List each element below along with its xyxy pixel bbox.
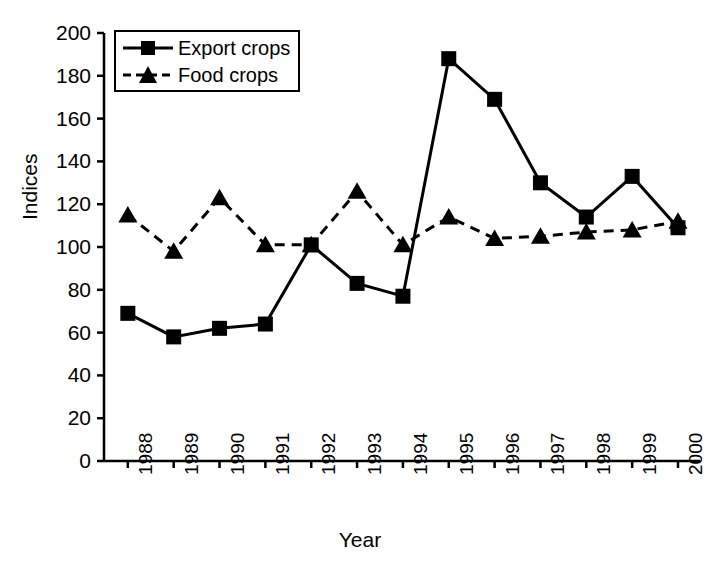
x-axis-tick-label: 1995 [457, 433, 476, 475]
y-axis-tick-label: 40 [31, 364, 91, 385]
legend-label: Food crops [178, 65, 278, 85]
x-axis-tick-label: 1989 [182, 433, 201, 475]
y-axis-tick-label: 200 [31, 22, 91, 43]
data-point-marker [579, 210, 594, 225]
x-axis-tick-label: 1988 [136, 433, 155, 475]
data-point-marker [348, 182, 367, 199]
data-point-marker [212, 321, 227, 336]
data-point-marker [393, 236, 412, 253]
data-point-marker [487, 92, 502, 107]
x-axis-tick-label: 1993 [365, 433, 384, 475]
y-axis-tick-label: 140 [31, 150, 91, 171]
y-axis-tick-label: 80 [31, 279, 91, 300]
x-axis-tick-label: 1998 [594, 433, 613, 475]
legend: Export crops Food crops [114, 30, 300, 92]
data-point-marker [258, 317, 273, 332]
x-axis-tick-label: 1990 [228, 433, 247, 475]
x-axis-tick-label: 1991 [273, 433, 292, 475]
data-point-marker [533, 175, 548, 190]
y-axis-tick-label: 180 [31, 65, 91, 86]
y-axis-tick-label: 120 [31, 193, 91, 214]
legend-swatch-solid-square-icon [122, 36, 174, 60]
x-axis-tick-label: 1994 [411, 433, 430, 475]
data-point-marker [166, 329, 181, 344]
data-point-marker [439, 208, 458, 225]
x-axis-tick-label: 1996 [503, 433, 522, 475]
legend-entry-food-crops: Food crops [122, 62, 278, 88]
x-axis-tick-label: 1992 [319, 433, 338, 475]
data-point-marker [350, 276, 365, 291]
y-axis-tick-label: 20 [31, 407, 91, 428]
y-axis-tick-label: 0 [31, 450, 91, 471]
legend-label: Export crops [178, 38, 290, 58]
x-axis-tick-label: 1997 [548, 433, 567, 475]
plot-area [0, 0, 720, 570]
data-point-marker [625, 169, 640, 184]
data-point-marker [118, 206, 137, 223]
x-axis-tick-label: 1999 [640, 433, 659, 475]
data-point-marker [395, 289, 410, 304]
data-point-marker [531, 227, 550, 244]
y-axis-tick-label: 60 [31, 322, 91, 343]
chart-container: Indices Year 020406080100120140160180200… [0, 0, 720, 570]
y-axis-tick-label: 160 [31, 108, 91, 129]
x-axis-tick-label: 2000 [686, 433, 705, 475]
x-axis-title: Year [0, 528, 720, 552]
y-axis-tick-label: 100 [31, 236, 91, 257]
data-point-marker [120, 306, 135, 321]
data-point-marker [441, 51, 456, 66]
data-point-marker [256, 236, 275, 253]
legend-entry-export-crops: Export crops [122, 35, 290, 61]
data-point-marker [210, 189, 229, 206]
legend-swatch-dashed-triangle-icon [122, 63, 174, 87]
data-point-marker [164, 242, 183, 259]
data-point-marker [485, 229, 504, 246]
